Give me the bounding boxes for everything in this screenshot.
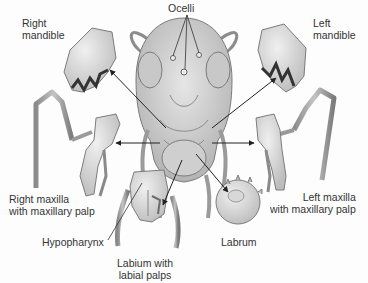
label-labrum: Labrum — [221, 236, 257, 248]
ocellus-median — [181, 69, 187, 75]
label-labium: Labium with labial palps — [117, 257, 173, 281]
head — [136, 18, 232, 182]
ocellus-left — [197, 53, 202, 58]
label-right-maxilla: Right maxilla with maxillary palp — [9, 193, 95, 217]
right-maxilla — [36, 92, 120, 196]
label-left-maxilla: Left maxilla with maxillary palp — [270, 191, 356, 215]
left-maxilla — [256, 90, 334, 192]
label-hypopharynx: Hypopharynx — [42, 236, 104, 248]
ocellus-right — [171, 56, 176, 61]
right-mandible — [64, 28, 116, 92]
label-right-mandible: Right mandible — [22, 17, 65, 41]
mouthparts-diagram: Ocelli Right mandible Left mandible Righ… — [0, 0, 368, 283]
left-compound-eye — [206, 52, 230, 88]
label-ocelli: Ocelli — [168, 2, 194, 14]
left-mandible — [258, 24, 306, 92]
label-left-mandible: Left mandible — [313, 17, 356, 41]
right-compound-eye — [138, 52, 162, 88]
